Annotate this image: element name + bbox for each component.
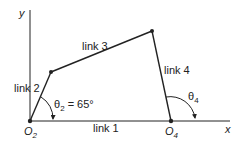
x-axis-label: x — [224, 123, 231, 135]
link-1-label: link 1 — [93, 122, 119, 134]
link-3-label: link 3 — [82, 40, 108, 52]
link-2-label: link 2 — [14, 82, 40, 94]
link-4 — [152, 31, 171, 121]
four-bar-linkage-diagram: y x link 3 link 2 link 4 link 1 O2 O4 θ2… — [0, 0, 242, 145]
pivot-o2 — [28, 119, 32, 123]
theta2-arc — [41, 97, 53, 119]
pivot-o4 — [169, 119, 173, 123]
joint-a — [49, 70, 53, 74]
link-2 — [30, 72, 51, 121]
theta2-label: θ2 = 65° — [54, 98, 94, 113]
o2-label: O2 — [24, 125, 38, 140]
y-axis-label: y — [18, 7, 26, 19]
o4-label: O4 — [165, 125, 179, 140]
joint-b — [150, 29, 154, 33]
theta4-label: θ4 — [188, 90, 199, 105]
link-4-label: link 4 — [164, 64, 190, 76]
